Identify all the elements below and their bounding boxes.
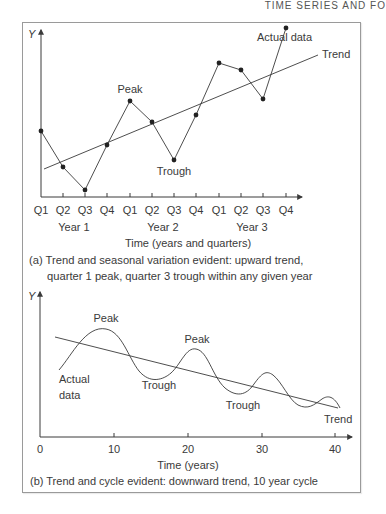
chart-a-trend-line (44, 55, 318, 169)
tick-label: Q2 (145, 204, 160, 216)
chart-b-trend-label: Trend (324, 413, 352, 425)
tick-label: Q1 (34, 204, 49, 216)
tick-label: 30 (256, 443, 268, 455)
chart-b-x-title: Time (years) (157, 459, 218, 471)
tick-label: 0 (37, 443, 43, 455)
chart-b-trough2-label: Trough (226, 399, 260, 411)
tick-label: Q1 (212, 204, 227, 216)
chart-a-trend-label: Trend (322, 48, 350, 60)
chart-b-peak1-label: Peak (93, 312, 119, 324)
tick-label: Q3 (167, 204, 182, 216)
tick-label: 40 (329, 443, 341, 455)
tick-label: Q1 (123, 204, 138, 216)
chart-b: Y 0 10 20 30 40 Time (years) Trend Peak … (28, 290, 352, 471)
tick-label: Q4 (189, 204, 204, 216)
chart-a-year-labels: Year 1 Year 2 Year 3 (58, 221, 267, 233)
chart-a-x-ticks (63, 193, 286, 197)
chart-a-y-label: Y (28, 28, 36, 40)
chart-b-y-label: Y (28, 290, 36, 302)
tick-label: Q3 (78, 204, 93, 216)
chart-a-trough-label: Trough (157, 165, 191, 177)
chart-a-caption-line2: quarter 1 peak, quarter 3 trough within … (47, 270, 313, 282)
year-label: Year 2 (147, 221, 178, 233)
chart-b-caption: (b) Trend and cycle evident: downward tr… (30, 475, 318, 487)
chart-a-quarter-labels: Q1 Q2 Q3 Q4 Q1 Q2 Q3 Q4 Q1 Q2 Q3 Q4 (34, 204, 294, 216)
year-label: Year 1 (58, 221, 89, 233)
chart-b-actual-label-1: Actual (59, 373, 90, 385)
chart-a: Y Q1 Q2 Q3 Q4 Q1 Q2 Q3 Q4 Q1 Q2 (28, 26, 350, 249)
tick-label: Q2 (234, 204, 249, 216)
tick-label: 20 (182, 443, 194, 455)
tick-label: Q4 (100, 204, 115, 216)
tick-label: Q3 (256, 204, 271, 216)
tick-label: Q4 (279, 204, 294, 216)
chart-a-x-title: Time (years and quarters) (125, 237, 251, 249)
tick-label: Q2 (56, 204, 71, 216)
chart-b-tick-labels: 0 10 20 30 40 (37, 443, 341, 455)
chart-b-trend-line (55, 337, 338, 408)
chart-a-caption-line1: (a) Trend and seasonal variation evident… (29, 254, 303, 266)
chart-a-actual-label: Actual data (257, 31, 313, 43)
chart-a-peak-label: Peak (117, 83, 143, 95)
chart-b-trough1-label: Trough (142, 379, 176, 391)
chart-b-actual-label-2: data (59, 389, 81, 401)
tick-label: 10 (108, 443, 120, 455)
chart-b-peak2-label: Peak (184, 333, 210, 345)
chart-b-x-ticks (114, 433, 335, 437)
year-label: Year 3 (236, 221, 267, 233)
